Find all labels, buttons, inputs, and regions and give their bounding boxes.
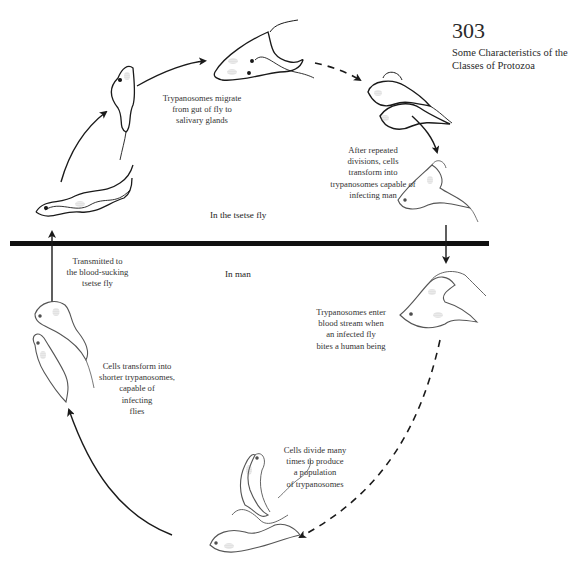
arrow-dashed-to-dividing [315,63,360,80]
caption-migrate: Trypanosomes migrate from gut of fly to … [142,93,262,127]
arrow-dashed-to-population [300,340,440,537]
region-label-man: In man [225,269,251,279]
blood-trypanosome-icon [400,271,486,327]
host-divider-bar [10,241,489,246]
caption-transform-man: After repeated divisions, cells transfor… [318,145,428,201]
upright-trypanosome-icon [111,66,134,160]
caption-divide: Cells divide many times to produce a pop… [275,445,355,490]
region-label-fly: In the tsetse fly [210,210,266,220]
caption-enter-blood: Trypanosomes enter blood stream when an … [306,307,396,352]
migrating-trypanosome-icon [214,20,314,80]
slender-trypanosome-icon [36,165,133,216]
caption-transmitted: Transmitted to the blood-sucking tsetse … [60,256,135,290]
short-trypanosome-icon [33,302,94,402]
arrow-to-short-forms [69,410,172,535]
caption-transform-flies: Cells transform into shorter trypanosome… [92,361,182,417]
arrow-to-migrate [137,61,205,86]
dividing-trypanosome-icon [368,72,452,129]
arrow-up-to-slender [61,112,106,182]
